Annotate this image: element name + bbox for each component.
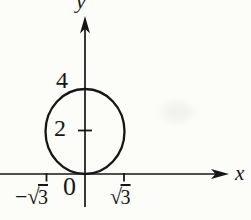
math-figure-circle-on-axes: y x 4 2 0 −√3 √3 — [0, 0, 251, 220]
x-tick-label-pos-sqrt3: √3 — [110, 186, 131, 208]
origin-label: 0 — [63, 174, 76, 200]
x-axis-label: x — [235, 163, 244, 184]
y-tick-label-2: 2 — [48, 116, 72, 140]
y-tick-label-4: 4 — [50, 68, 74, 92]
minus-radical-sign: −√ — [15, 184, 39, 209]
y-axis-label: y — [76, 0, 86, 12]
radicand-3: 3 — [38, 186, 48, 208]
x-tick-label-neg-sqrt3: −√3 — [15, 186, 48, 208]
radicand-3: 3 — [121, 186, 131, 208]
